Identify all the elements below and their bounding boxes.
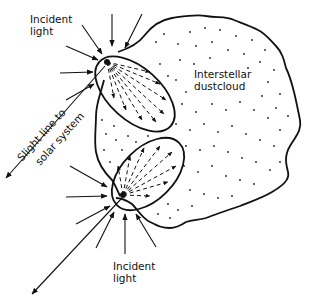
upper-focus — [104, 59, 110, 65]
incident-light-bottom-label: Incident — [113, 260, 155, 272]
sight-lines — [6, 66, 121, 294]
lower-scatter-rays — [118, 146, 176, 196]
upper-incident-arrows — [60, 14, 142, 100]
cloud-label-2: dustcloud — [194, 80, 245, 92]
lower-sight-line — [32, 199, 121, 294]
lower-focus — [120, 192, 126, 198]
incident-light-top-label-2: light — [30, 25, 53, 37]
incident-light-bottom-label-2: light — [113, 272, 136, 284]
upper-scatter-rays — [107, 62, 166, 122]
incident-light-top-label: Incident — [30, 13, 72, 25]
lower-scattering-ellipse — [99, 125, 198, 224]
diagram-canvas: Incident light Interstellar dustcloud Sl… — [0, 0, 310, 301]
upper-scattering-ellipse — [82, 43, 188, 146]
dust-cloud-left-contour — [95, 80, 120, 196]
dust-cloud-outline — [116, 15, 300, 228]
cloud-label: Interstellar — [194, 68, 252, 80]
